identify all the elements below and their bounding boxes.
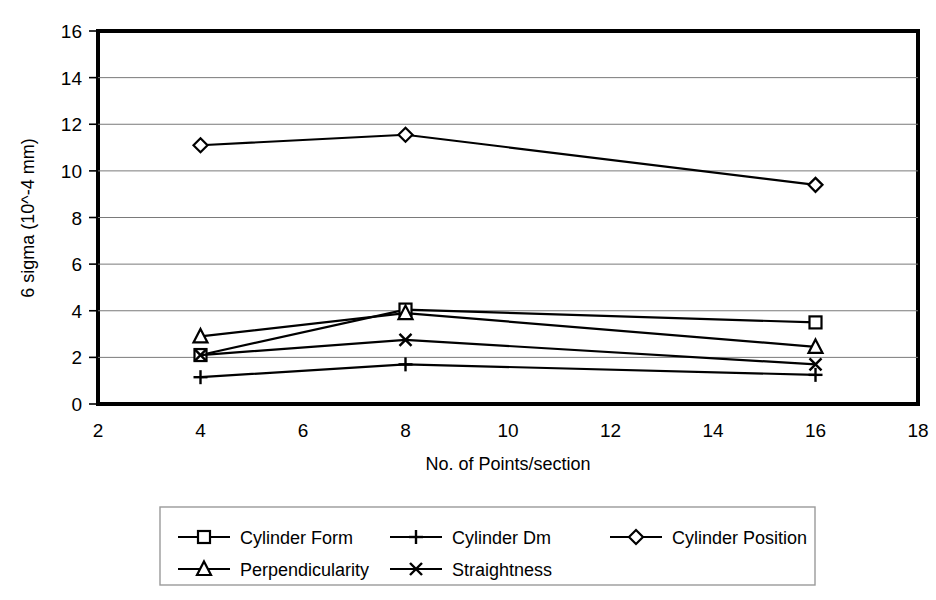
x-tick-label: 8 [400, 420, 411, 441]
x-tick-label: 12 [600, 420, 621, 441]
y-tick-label: 14 [61, 68, 83, 89]
y-tick-label: 10 [61, 161, 82, 182]
chart-svg: 0246810121416 24681012141618 6 sigma (10… [0, 0, 936, 600]
x-axis-title: No. of Points/section [425, 454, 590, 474]
y-tick-label: 12 [61, 114, 82, 135]
legend-item-label: Straightness [452, 560, 552, 580]
y-tick-label: 6 [71, 254, 82, 275]
y-tick-label: 8 [71, 208, 82, 229]
y-tick-label: 0 [71, 394, 82, 415]
x-tick-label: 16 [805, 420, 826, 441]
y-tick-label: 16 [61, 21, 82, 42]
y-axis: 0246810121416 [61, 21, 98, 415]
legend-item-label: Cylinder Form [240, 528, 353, 548]
x-tick-label: 14 [702, 420, 724, 441]
x-axis: 24681012141618 [93, 420, 929, 441]
legend: Cylinder FormCylinder DmCylinder Positio… [160, 507, 815, 585]
y-tick-label: 4 [71, 301, 82, 322]
marker-square [810, 316, 822, 328]
x-tick-label: 6 [298, 420, 309, 441]
x-tick-label: 4 [195, 420, 206, 441]
data-point-0-2 [810, 316, 822, 328]
x-tick-label: 10 [497, 420, 518, 441]
legend-item-label: Perpendicularity [240, 560, 369, 580]
x-tick-label: 2 [93, 420, 104, 441]
x-tick-label: 18 [907, 420, 928, 441]
legend-item-label: Cylinder Dm [452, 528, 551, 548]
chart-figure: 0246810121416 24681012141618 6 sigma (10… [0, 0, 936, 600]
marker-square [198, 531, 210, 543]
y-tick-label: 2 [71, 347, 82, 368]
data-point-legend-0 [198, 531, 210, 543]
y-axis-title: 6 sigma (10^-4 mm) [18, 138, 38, 297]
legend-item-label: Cylinder Position [672, 528, 807, 548]
